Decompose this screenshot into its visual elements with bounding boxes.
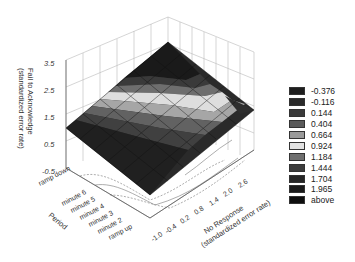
svg-text:0.2: 0.2	[179, 214, 191, 225]
z-axis-title: Fail to Acknowledge	[26, 68, 35, 135]
legend-swatch	[289, 98, 305, 106]
legend-item: -0.376	[289, 86, 335, 97]
svg-text:1.5: 1.5	[44, 113, 55, 122]
legend: -0.376 -0.116 0.144 0.404 0.664 0.924 1.…	[289, 86, 335, 206]
surface	[66, 42, 254, 195]
legend-item: 0.144	[289, 108, 335, 119]
legend-item: above	[289, 195, 335, 206]
y-axis-title: Period	[47, 211, 69, 232]
legend-item: 0.924	[289, 140, 335, 151]
legend-swatch	[289, 196, 305, 204]
svg-text:0.5: 0.5	[44, 140, 55, 149]
legend-swatch	[289, 153, 305, 161]
legend-swatch	[289, 175, 305, 183]
svg-text:2.0: 2.0	[222, 187, 234, 198]
legend-swatch	[289, 185, 305, 193]
legend-swatch	[289, 120, 305, 128]
legend-swatch	[289, 131, 305, 139]
svg-text:-1.0: -1.0	[150, 230, 164, 242]
legend-item: 1.444	[289, 162, 335, 173]
svg-text:1.4: 1.4	[208, 196, 220, 207]
svg-text:2.5: 2.5	[43, 86, 55, 95]
svg-text:3.5: 3.5	[44, 59, 55, 68]
z-axis-subtitle: (standardized error rate)	[17, 68, 26, 149]
y-axis-ticks: ramp down minute 6 minute 5 minute 4 min…	[37, 164, 134, 241]
legend-swatch	[289, 109, 305, 117]
legend-item: 1.184	[289, 151, 335, 162]
legend-swatch	[289, 164, 305, 172]
svg-text:2.6: 2.6	[237, 178, 249, 189]
legend-item: 0.664	[289, 130, 335, 141]
legend-item: 1.965	[289, 184, 335, 195]
svg-text:0.8: 0.8	[193, 205, 205, 216]
svg-text:-0.4: -0.4	[164, 222, 178, 234]
legend-swatch	[289, 87, 305, 95]
z-axis-ticks: 3.5 2.5 1.5 0.5 -0.5	[42, 59, 56, 176]
legend-swatch	[289, 142, 305, 150]
legend-item: 0.404	[289, 119, 335, 130]
legend-item: 1.704	[289, 173, 335, 184]
legend-item: -0.116	[289, 97, 335, 108]
